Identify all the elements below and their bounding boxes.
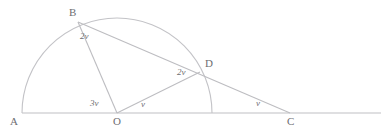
angle-label-at-b: 2v [80, 32, 89, 41]
vertex-label-o: O [113, 116, 121, 127]
segment-o-d [117, 72, 200, 113]
geometry-figure: A B O D C 2v 2v 3v v v [0, 0, 387, 136]
vertex-label-b: B [69, 7, 77, 18]
angle-label-boa: 3v [90, 99, 99, 108]
vertex-label-a: A [10, 116, 18, 127]
angle-label-at-c: v [256, 99, 260, 108]
vertex-label-d: D [205, 58, 213, 69]
semicircle-arc [22, 18, 212, 113]
geometry-canvas [0, 0, 387, 136]
vertex-label-c: C [287, 116, 295, 127]
angle-label-doc: v [141, 100, 145, 109]
angle-label-at-d: 2v [177, 68, 186, 77]
